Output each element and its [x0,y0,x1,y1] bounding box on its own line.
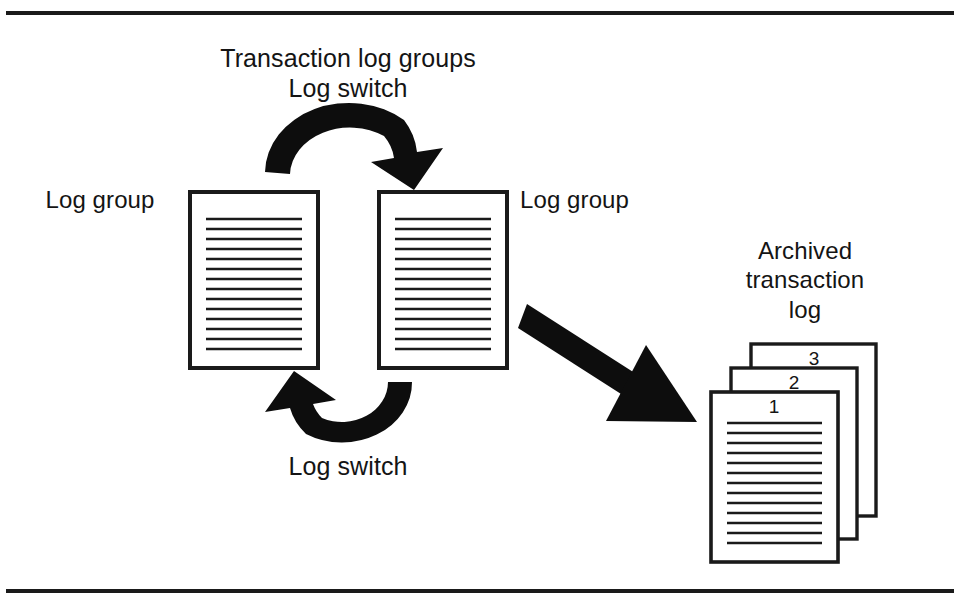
archived-page-number-3: 3 [794,348,834,370]
label-log-switch-bottom: Log switch [248,452,448,482]
archived-page-number-1: 1 [754,396,794,418]
archived-page-number-2: 2 [774,372,814,394]
archive-arrow-icon [518,304,697,422]
log-switch-arrow-top-icon [265,103,443,190]
label-archived-line2: transaction [715,265,895,294]
log-group-document-right [379,192,507,368]
diagram-title-line2: Log switch [0,74,696,104]
top-rule [6,11,954,15]
label-archived-line3: log [715,295,895,324]
label-archived-transaction-log: Archivedtransactionlog [715,236,895,324]
log-switch-arrow-bottom-icon [265,371,412,443]
label-log-group-left: Log group [20,186,180,214]
bottom-rule [6,589,954,593]
figure-canvas: Transaction log groupsLog switch Log gro… [0,0,963,610]
diagram-title: Transaction log groupsLog switch [0,44,696,103]
label-log-group-right: Log group [520,186,680,214]
label-archived-line1: Archived [715,236,895,265]
diagram-title-line1: Transaction log groups [220,44,476,72]
log-group-document-left [190,192,318,368]
